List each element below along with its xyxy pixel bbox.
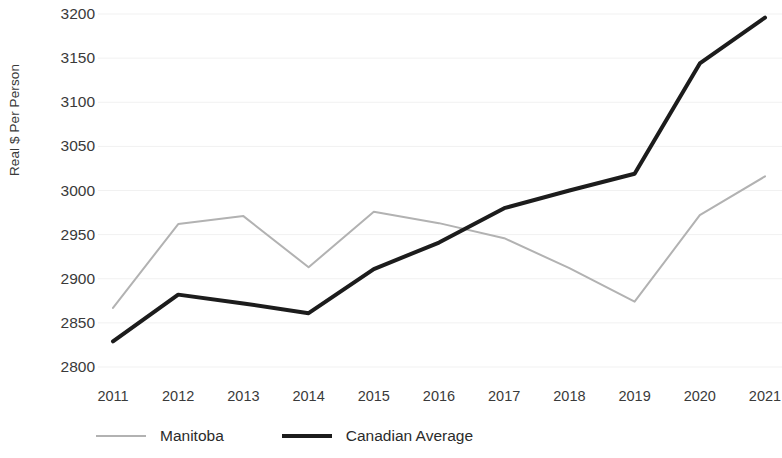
- x-axis-tick-label: 2019: [605, 389, 665, 404]
- legend-line-swatch-icon: [96, 435, 146, 437]
- x-axis-tick-label: 2018: [539, 389, 599, 404]
- x-axis-tick-label: 2012: [148, 389, 208, 404]
- legend-item[interactable]: Canadian Average: [282, 428, 473, 444]
- x-axis-tick-label: 2017: [474, 389, 534, 404]
- gridlines: [98, 14, 782, 367]
- legend-item-label: Manitoba: [160, 428, 224, 444]
- legend-item-label: Canadian Average: [346, 428, 473, 444]
- x-axis-tick-label: 2013: [213, 389, 273, 404]
- x-axis-tick-label: 2011: [83, 389, 143, 404]
- line-chart: Real $ Per Person 2800285029002950300030…: [0, 0, 782, 458]
- legend-line-swatch-icon: [282, 434, 332, 438]
- x-axis-tick-label: 2020: [670, 389, 730, 404]
- chart-legend: ManitobaCanadian Average: [96, 428, 473, 444]
- series-lines: [113, 18, 765, 342]
- x-axis-tick-label: 2015: [344, 389, 404, 404]
- series-line-canadian-average: [113, 18, 765, 342]
- x-axis-tick-label: 2016: [409, 389, 469, 404]
- x-axis-tick-label: 2014: [279, 389, 339, 404]
- legend-item[interactable]: Manitoba: [96, 428, 224, 444]
- x-axis-tick-label: 2021: [735, 389, 782, 404]
